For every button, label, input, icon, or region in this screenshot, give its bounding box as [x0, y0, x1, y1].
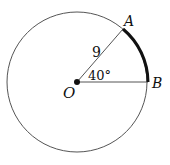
arc-AB [123, 29, 148, 82]
radius-label: 9 [92, 44, 101, 60]
label-A: A [122, 13, 134, 29]
label-O: O [63, 84, 75, 102]
angle-label: 40° [88, 68, 111, 83]
circle-diagram: O A B 9 40° [0, 0, 170, 165]
label-B: B [151, 75, 162, 91]
